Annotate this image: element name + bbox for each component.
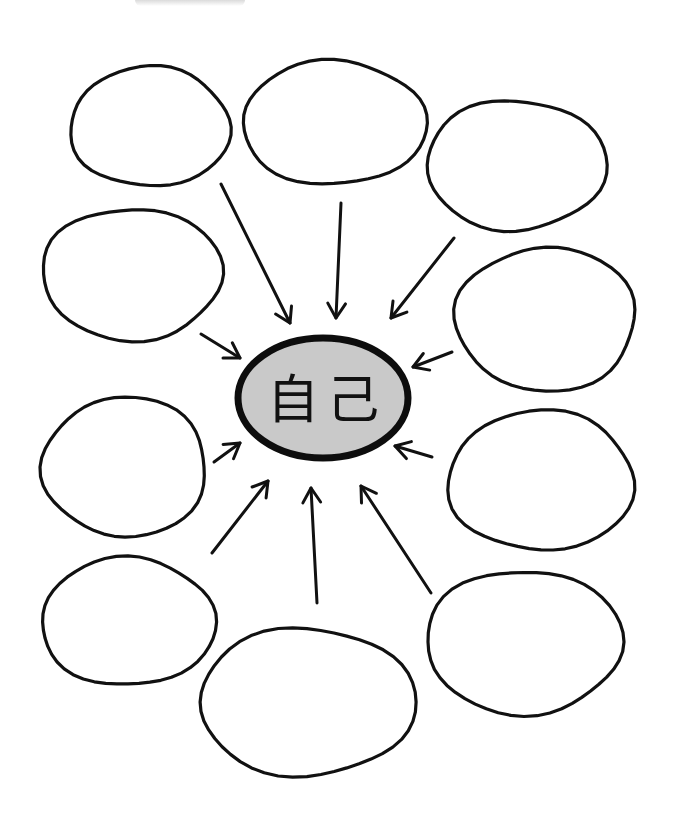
bubble-outline	[44, 210, 224, 342]
bubble-outline	[71, 66, 231, 186]
bubble-right-upper	[454, 247, 635, 391]
bubble-top-right	[427, 101, 607, 232]
bubble-top-left	[71, 66, 231, 186]
arrow-icon	[395, 442, 432, 459]
arrow-icon	[214, 443, 240, 462]
arrow-icon	[201, 334, 240, 358]
bubble-outline	[40, 397, 204, 537]
arrow-icon	[361, 486, 431, 593]
center-label: 自己	[267, 370, 387, 430]
arrow-icon	[303, 488, 321, 603]
bubble-outline	[200, 628, 416, 777]
bubble-outline	[448, 410, 635, 550]
bubble-left-upper	[44, 210, 224, 342]
arrow-icon	[413, 352, 452, 370]
bubble-outline	[43, 556, 217, 684]
arrow-icon	[212, 481, 268, 553]
bubble-bottom-right	[428, 573, 624, 717]
mind-map-diagram: 自己	[0, 0, 675, 831]
bubble-outline	[454, 247, 635, 391]
bubble-top-center	[243, 59, 427, 184]
bubble-bottom-left	[43, 556, 217, 684]
center-node: 自己	[238, 338, 408, 458]
bubble-bottom-center	[200, 628, 416, 777]
bubble-outline	[428, 573, 624, 717]
arrow-icon	[391, 238, 454, 318]
bubble-outline	[427, 101, 607, 232]
bubble-right-lower	[448, 410, 635, 550]
bubble-left-lower	[40, 397, 204, 537]
bubble-outline	[243, 59, 427, 184]
arrow-icon	[328, 203, 346, 318]
arrow-icon	[221, 184, 292, 323]
